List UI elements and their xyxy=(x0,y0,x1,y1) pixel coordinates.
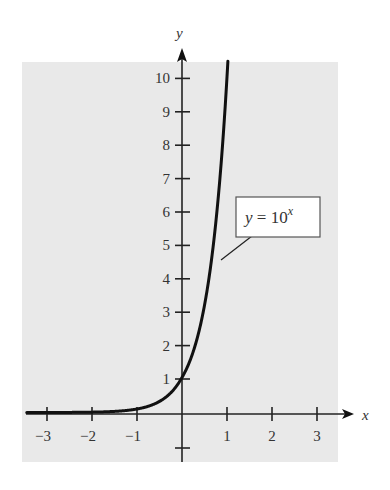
x-tick-label: 2 xyxy=(268,428,276,444)
y-tick-label: 4 xyxy=(163,271,171,287)
y-tick-label: 5 xyxy=(163,237,171,253)
plot-background xyxy=(22,62,338,462)
x-axis-label: x xyxy=(361,407,369,423)
y-tick-label: 8 xyxy=(163,137,171,153)
y-tick-label: 6 xyxy=(163,204,171,220)
svg-text:y = 10x: y = 10x xyxy=(243,204,294,227)
y-tick-label: 9 xyxy=(163,104,171,120)
exponential-chart: −3−2−1123 12345678910 x y y = 10x xyxy=(0,0,390,490)
y-tick-label: 3 xyxy=(163,304,171,320)
x-tick-label: 1 xyxy=(223,428,231,444)
x-tick-label: 3 xyxy=(313,428,321,444)
y-tick-label: 2 xyxy=(163,338,171,354)
x-tick-label: −2 xyxy=(80,428,96,444)
y-axis-label: y xyxy=(174,25,183,41)
x-tick-label: −1 xyxy=(125,428,141,444)
function-label-box: y = 10x xyxy=(236,197,320,237)
y-tick-label: 7 xyxy=(163,171,171,187)
x-tick-label: −3 xyxy=(35,428,51,444)
y-tick-label: 1 xyxy=(163,371,171,387)
y-tick-label: 10 xyxy=(155,70,170,86)
